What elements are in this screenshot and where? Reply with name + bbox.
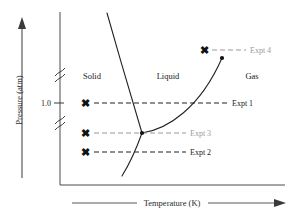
- expt-1-x-marker: ✖: [81, 97, 90, 109]
- pressure-axis-arrow-head: [18, 17, 26, 29]
- phase-label-gas: Gas: [245, 71, 258, 81]
- y-axis-title: Pressure (atm): [14, 75, 24, 125]
- expt-3-x-marker: ✖: [81, 127, 90, 139]
- expt-4-label: Expt 4: [250, 46, 271, 55]
- phase-label-solid: Solid: [83, 71, 102, 81]
- phase-label-liquid: Liquid: [157, 71, 180, 81]
- expt-1-label: Expt 1: [232, 99, 253, 108]
- phase-diagram-figure: ✖ Expt 4 ✖ Expt 1 ✖ Expt 3 ✖ Expt 2 Soli…: [0, 0, 303, 218]
- y-axis-tick-label-1-0: 1.0: [41, 99, 51, 108]
- critical-point-dot: [220, 56, 224, 60]
- expt-3-label: Expt 3: [190, 129, 211, 138]
- x-axis-title: Temperature (K): [144, 198, 201, 208]
- triple-point-dot: [140, 131, 144, 135]
- expt-4-x-marker: ✖: [200, 44, 209, 56]
- fusion-curve: [107, 13, 142, 133]
- sublimation-curve: [122, 133, 142, 176]
- expt-2-label: Expt 2: [190, 148, 211, 157]
- phase-diagram-canvas: ✖ Expt 4 ✖ Expt 1 ✖ Expt 3 ✖ Expt 2 Soli…: [0, 0, 303, 218]
- expt-2-x-marker: ✖: [81, 146, 90, 158]
- temperature-axis-arrow-head: [274, 199, 286, 207]
- vaporization-curve: [142, 58, 222, 133]
